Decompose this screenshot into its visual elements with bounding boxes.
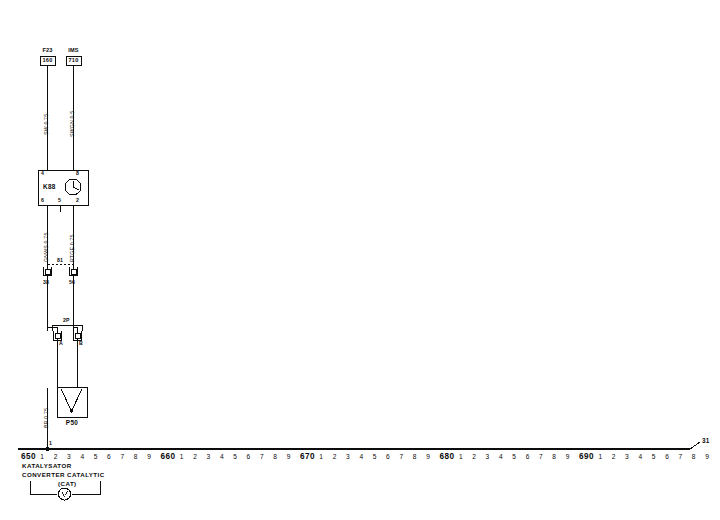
wire-label-br-075: BR 0.75 bbox=[44, 408, 49, 428]
ground-bus-scale: 6501234567896601234567896701234567896801… bbox=[0, 453, 720, 467]
bus-scale-tick: 6 bbox=[526, 454, 530, 461]
ref-f23-code: F23 bbox=[40, 48, 55, 54]
connector-81-label: 81 bbox=[57, 258, 63, 263]
relay-pin-8: 8 bbox=[76, 171, 79, 176]
bus-scale-tick: 2 bbox=[54, 454, 58, 461]
legend-lambda-glyph bbox=[62, 491, 68, 497]
bus-scale-tick: 9 bbox=[705, 454, 709, 461]
bus-scale-tick: 6 bbox=[247, 454, 251, 461]
ref-f23-page: 160 bbox=[40, 58, 55, 64]
connector-2p-left-body bbox=[55, 334, 60, 339]
bus-scale-tick: 7 bbox=[539, 454, 543, 461]
bus-scale-tick: 6 bbox=[665, 454, 669, 461]
bus-scale-tick: 1 bbox=[598, 454, 602, 461]
bus-scale-tick: 1 bbox=[40, 454, 44, 461]
sensor-p50-tip bbox=[70, 409, 73, 412]
caption-title: KATALYSATOR bbox=[22, 463, 72, 469]
bus-scale-tick: 4 bbox=[220, 454, 224, 461]
bus-scale-tick: 8 bbox=[692, 454, 696, 461]
bus-scale-tick: 7 bbox=[120, 454, 124, 461]
bus-scale-tick: 3 bbox=[67, 454, 71, 461]
bus-scale-tick: 3 bbox=[625, 454, 629, 461]
ground-bus-terminal-label: 31 bbox=[702, 438, 710, 444]
relay-clock-hands bbox=[73, 181, 79, 190]
bus-scale-tick: 7 bbox=[399, 454, 403, 461]
sensor-p50-label: P50 bbox=[57, 420, 87, 426]
sensor-p50-symbol bbox=[61, 389, 82, 411]
bus-scale-decade: 660 bbox=[161, 453, 176, 461]
bus-scale-tick: 9 bbox=[287, 454, 291, 461]
connector-81-pin-56: 56 bbox=[69, 280, 75, 285]
wiring-diagram-page: F23 160 IMS 710 SW 0.75 SWGN 0.5 K88 4 8… bbox=[0, 0, 720, 520]
wire-label-rtge-075: RTGE 0.75 bbox=[70, 234, 75, 262]
connector-81-left-body bbox=[45, 270, 50, 275]
relay-pin-2: 2 bbox=[76, 198, 79, 203]
bus-scale-tick: 5 bbox=[233, 454, 237, 461]
ground-node-marker: 1 bbox=[49, 441, 52, 446]
bus-scale-tick: 7 bbox=[260, 454, 264, 461]
bus-scale-tick: 9 bbox=[147, 454, 151, 461]
bus-scale-tick: 4 bbox=[499, 454, 503, 461]
bus-scale-tick: 1 bbox=[180, 454, 184, 461]
caption-subtitle2: (CAT) bbox=[58, 481, 77, 487]
connector-2p-pin-a: A bbox=[59, 341, 63, 346]
bus-scale-tick: 9 bbox=[426, 454, 430, 461]
relay-pin-5: 5 bbox=[58, 198, 61, 203]
connector-81-pin-38: 38 bbox=[43, 280, 49, 285]
wire-label-swgn-05: SWGN 0.5 bbox=[70, 111, 75, 137]
bus-scale-tick: 4 bbox=[638, 454, 642, 461]
bus-scale-tick: 2 bbox=[333, 454, 337, 461]
bus-scale-tick: 8 bbox=[273, 454, 277, 461]
bus-scale-tick: 3 bbox=[207, 454, 211, 461]
bus-scale-tick: 1 bbox=[459, 454, 463, 461]
ref-ims-code: IMS bbox=[66, 48, 81, 54]
bus-scale-decade: 690 bbox=[579, 453, 594, 461]
bus-scale-tick: 3 bbox=[346, 454, 350, 461]
bus-scale-tick: 9 bbox=[566, 454, 570, 461]
wire-56-to-2pB bbox=[74, 327, 78, 331]
bus-scale-decade: 680 bbox=[440, 453, 455, 461]
bus-scale-decade: 670 bbox=[300, 453, 315, 461]
caption-subtitle: CONVERTER CATALYTIC bbox=[22, 472, 105, 478]
connector-81-right-body bbox=[71, 270, 76, 275]
bus-scale-tick: 8 bbox=[552, 454, 556, 461]
ref-ims-page: 710 bbox=[66, 58, 81, 64]
relay-pin-4: 4 bbox=[41, 171, 44, 176]
bus-scale-tick: 3 bbox=[486, 454, 490, 461]
bus-scale-tick: 7 bbox=[678, 454, 682, 461]
ground-bus-terminal-tick bbox=[690, 442, 700, 449]
bus-scale-tick: 4 bbox=[359, 454, 363, 461]
wire-label-sw-075: SW 0.75 bbox=[44, 114, 49, 135]
bus-scale-tick: 5 bbox=[373, 454, 377, 461]
bus-scale-tick: 1 bbox=[319, 454, 323, 461]
bus-scale-tick: 8 bbox=[413, 454, 417, 461]
wire-label-gnws-075: GNWS 0.75 bbox=[44, 233, 49, 262]
bus-scale-decade: 650 bbox=[21, 453, 36, 461]
bus-scale-tick: 6 bbox=[107, 454, 111, 461]
legend-lambda-circle bbox=[59, 488, 71, 500]
bus-scale-tick: 5 bbox=[94, 454, 98, 461]
relay-k88-label: K88 bbox=[43, 184, 56, 190]
relay-pin-6: 6 bbox=[41, 198, 44, 203]
bus-scale-tick: 2 bbox=[193, 454, 197, 461]
bus-scale-tick: 5 bbox=[652, 454, 656, 461]
bus-scale-tick: 2 bbox=[612, 454, 616, 461]
connector-2p-label: 2P bbox=[63, 318, 70, 323]
connector-2p-pin-b: B bbox=[79, 341, 83, 346]
bus-scale-tick: 8 bbox=[134, 454, 138, 461]
bus-scale-tick: 4 bbox=[80, 454, 84, 461]
schematic-drawing bbox=[0, 0, 720, 520]
bus-scale-tick: 5 bbox=[512, 454, 516, 461]
connector-2p-right-body bbox=[75, 334, 80, 339]
bus-scale-tick: 2 bbox=[472, 454, 476, 461]
bus-scale-tick: 6 bbox=[386, 454, 390, 461]
